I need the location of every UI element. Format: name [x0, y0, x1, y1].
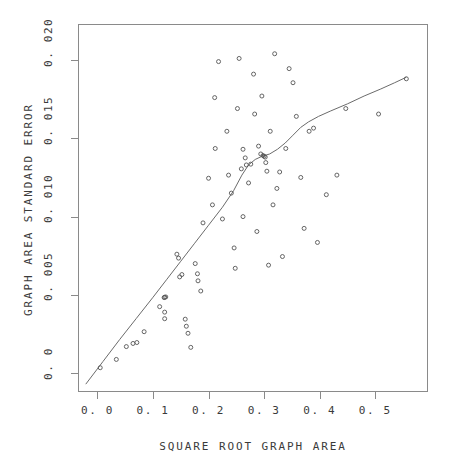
data-point	[280, 255, 284, 259]
x-tick	[320, 392, 321, 399]
data-point	[189, 345, 193, 349]
data-point	[312, 126, 316, 130]
data-point	[377, 112, 381, 116]
y-tick-label: 0. 015	[42, 95, 55, 144]
data-point	[278, 170, 282, 174]
data-point	[210, 203, 214, 207]
data-point	[193, 262, 197, 266]
data-point	[183, 317, 187, 321]
x-axis-title: SQUARE ROOT GRAPH AREA	[159, 440, 347, 453]
data-point	[207, 176, 211, 180]
data-point	[199, 289, 203, 293]
data-point	[235, 107, 239, 111]
x-tick	[375, 392, 376, 399]
data-point	[217, 60, 221, 64]
x-tick	[264, 392, 265, 399]
plot-data-layer	[0, 0, 449, 469]
data-point	[307, 129, 311, 133]
data-point	[225, 129, 229, 133]
y-axis-title: GRAPH AREA STANDARD ERROR	[22, 103, 35, 316]
data-point	[241, 215, 245, 219]
data-point	[287, 67, 291, 71]
data-point	[315, 240, 319, 244]
data-point	[265, 169, 269, 173]
x-tick	[97, 392, 98, 399]
data-point	[267, 263, 271, 267]
y-tick	[71, 138, 78, 139]
data-point	[275, 186, 279, 190]
y-tick-label: 0. 010	[42, 174, 55, 223]
data-point	[186, 331, 190, 335]
data-point	[253, 112, 257, 116]
scatter-plot-figure: 0. 00. 10. 20. 30. 40. 5 0. 00. 0050. 01…	[0, 0, 449, 469]
data-point	[213, 96, 217, 100]
x-tick-label: 0. 2	[192, 404, 225, 417]
y-tick-label: 0. 020	[42, 17, 55, 66]
data-point	[243, 156, 247, 160]
data-point	[268, 129, 272, 133]
x-tick-label: 0. 5	[359, 404, 392, 417]
data-point	[195, 272, 199, 276]
x-tick-label: 0. 1	[137, 404, 170, 417]
data-point	[244, 163, 248, 167]
smooth-trend-line	[86, 77, 407, 384]
data-point	[232, 246, 236, 250]
data-point	[163, 310, 167, 314]
data-point	[135, 341, 139, 345]
data-point	[252, 72, 256, 76]
data-point	[302, 226, 306, 230]
x-tick-label: 0. 4	[303, 404, 336, 417]
data-point	[163, 317, 167, 321]
data-point	[227, 173, 231, 177]
data-point	[335, 173, 339, 177]
data-point	[239, 167, 243, 171]
y-tick-label: 0. 005	[42, 252, 55, 301]
data-point	[220, 217, 224, 221]
data-point	[213, 146, 217, 150]
data-point	[294, 114, 298, 118]
data-point	[114, 357, 118, 361]
data-points-group	[98, 52, 408, 370]
data-point	[324, 193, 328, 197]
data-point	[291, 81, 295, 85]
data-point	[241, 147, 245, 151]
data-point	[177, 256, 181, 260]
data-point	[344, 107, 348, 111]
y-tick	[71, 373, 78, 374]
data-point	[233, 266, 237, 270]
data-point	[124, 345, 128, 349]
x-tick	[209, 392, 210, 399]
y-tick	[71, 60, 78, 61]
x-tick	[153, 392, 154, 399]
data-point	[131, 341, 135, 345]
data-point	[237, 56, 241, 60]
data-point	[271, 203, 275, 207]
data-point	[247, 181, 251, 185]
data-point	[255, 229, 259, 233]
y-tick	[71, 217, 78, 218]
data-point	[260, 94, 264, 98]
y-tick	[71, 295, 78, 296]
data-point	[158, 305, 162, 309]
trend-line-path	[86, 77, 407, 384]
data-point	[175, 252, 179, 256]
x-tick-label: 0. 0	[81, 404, 114, 417]
y-tick-label: 0. 0	[42, 347, 55, 380]
data-point	[142, 330, 146, 334]
data-point	[299, 175, 303, 179]
data-point	[264, 161, 268, 165]
data-point	[284, 146, 288, 150]
data-point	[196, 279, 200, 283]
data-point	[257, 144, 261, 148]
data-point	[184, 324, 188, 328]
data-point	[273, 52, 277, 56]
data-point	[201, 221, 205, 225]
x-tick-label: 0. 3	[248, 404, 281, 417]
